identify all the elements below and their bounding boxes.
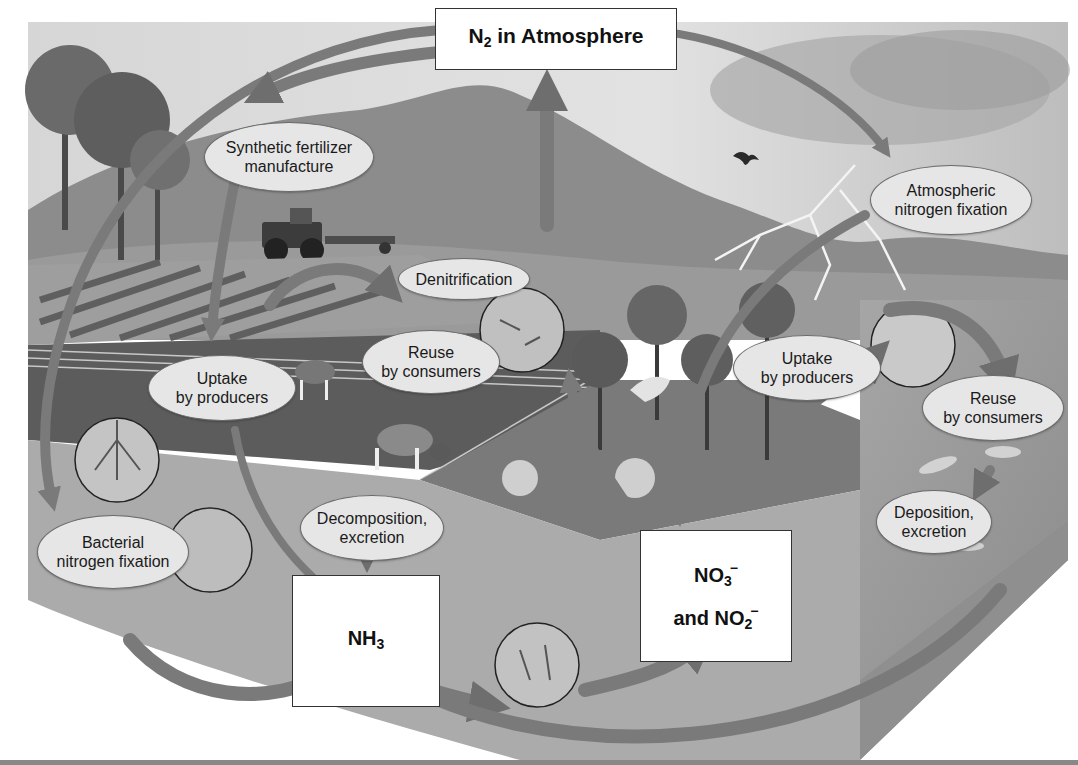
label-line: Uptake [782, 349, 833, 368]
label-uptake-producers-water: Uptake by producers [733, 335, 881, 401]
label-line: excretion [902, 522, 967, 541]
label-atmospheric-fixation: Atmospheric nitrogen fixation [870, 165, 1032, 235]
no3-charge: − [730, 560, 738, 576]
label-line: nitrogen fixation [57, 552, 170, 571]
nitrifying-bacteria-inset [495, 623, 579, 707]
label-line: by producers [176, 388, 269, 407]
label-synthetic-fertilizer: Synthetic fertilizer manufacture [204, 122, 374, 192]
label-line: Reuse [970, 389, 1016, 408]
no2-symbol: and NO [673, 607, 744, 629]
label-line: by consumers [381, 362, 481, 381]
label-uptake-producers-land: Uptake by producers [148, 355, 296, 421]
label-line: nitrogen fixation [895, 200, 1008, 219]
label-line: Denitrification [416, 270, 513, 289]
label-line: by producers [761, 368, 854, 387]
label-line: Atmospheric [907, 181, 996, 200]
label-line: by consumers [943, 408, 1043, 427]
label-line: manufacture [245, 157, 334, 176]
nitrate-nitrite-box: NO3− and NO2− [640, 530, 792, 662]
label-line: Decomposition, [317, 509, 427, 528]
label-bacterial-fixation: Bacterial nitrogen fixation [37, 515, 189, 589]
n2-atmosphere-box: N2 in Atmosphere [435, 8, 677, 70]
n2-box-label: in Atmosphere [491, 24, 643, 47]
no2-charge: − [750, 603, 758, 619]
label-line: Synthetic fertilizer [226, 138, 352, 157]
nh3-symbol: NH [348, 627, 377, 649]
label-reuse-consumers-water: Reuse by consumers [922, 375, 1064, 441]
label-line: Deposition, [894, 503, 974, 522]
label-line: Bacterial [82, 533, 144, 552]
bottom-border [0, 760, 1078, 765]
label-line: excretion [340, 528, 405, 547]
label-line: Uptake [197, 369, 248, 388]
label-denitrification: Denitrification [398, 258, 530, 300]
n2-symbol: N [468, 24, 483, 47]
nh3-box: NH3 [292, 575, 440, 707]
nh3-subscript: 3 [377, 636, 385, 652]
label-reuse-consumers-land: Reuse by consumers [362, 330, 500, 394]
label-deposition-excretion: Deposition, excretion [876, 490, 992, 554]
no3-symbol: NO [694, 564, 724, 586]
label-line: Reuse [408, 343, 454, 362]
label-decomposition-excretion: Decomposition, excretion [300, 495, 444, 561]
